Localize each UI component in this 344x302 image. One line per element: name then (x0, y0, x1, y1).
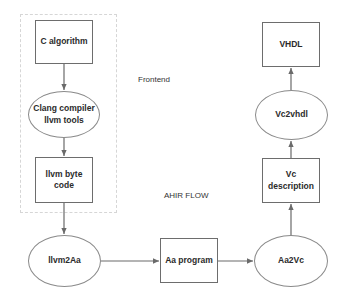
frontend-label: Frontend (138, 75, 170, 84)
node-aa-program: Aa program (160, 238, 218, 283)
node-vhdl: VHDL (262, 22, 320, 67)
node-c-algorithm-label: C algorithm (40, 36, 87, 46)
node-aa2vc-label: Aa2Vc (278, 255, 304, 265)
node-vcdesc-label-2: description (268, 181, 314, 192)
node-aa-program-label: Aa program (165, 255, 213, 265)
ahir-flow-label: AHIR FLOW (164, 191, 208, 200)
node-vhdl-label: VHDL (279, 39, 302, 49)
node-vc2vhdl-label: Vc2vhdl (275, 109, 308, 119)
node-vc2vhdl: Vc2vhdl (255, 90, 328, 140)
node-llvm-byte-code: llvm byte code (35, 157, 93, 203)
node-llvm2aa: llvm2Aa (28, 235, 101, 287)
node-clang-compiler: Clang compiler llvm tools (28, 91, 100, 138)
node-bytecode-label-2: code (46, 180, 83, 191)
ahir-flow-diagram: C algorithm Clang compiler llvm tools ll… (0, 0, 344, 302)
node-aa2vc: Aa2Vc (254, 235, 328, 287)
node-vc-description: Vc description (262, 158, 320, 203)
node-c-algorithm: C algorithm (35, 20, 93, 64)
node-vcdesc-label-1: Vc (268, 169, 314, 180)
node-llvm2aa-label: llvm2Aa (48, 255, 81, 265)
node-clang-label-1: Clang compiler (33, 103, 94, 114)
node-clang-label-2: llvm tools (33, 115, 94, 126)
node-bytecode-label-1: llvm byte (46, 169, 83, 180)
